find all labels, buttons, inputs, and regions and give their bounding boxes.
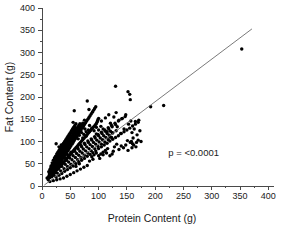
data-point — [101, 127, 104, 130]
data-point — [81, 136, 84, 139]
data-point — [87, 108, 90, 111]
scatter-plot-figure: 050100150200250300350400 050100150200250… — [0, 0, 282, 228]
data-point — [82, 166, 85, 169]
data-point — [124, 113, 127, 116]
y-tick-label: 400 — [20, 3, 35, 13]
y-tick-label: 350 — [20, 25, 35, 35]
data-point — [124, 143, 127, 146]
data-point — [78, 134, 81, 137]
data-point — [65, 175, 68, 178]
y-axis-tick-labels: 050100150200250300350400 — [20, 3, 35, 191]
data-point — [100, 119, 103, 122]
y-tick-label: 250 — [20, 70, 35, 80]
x-tick-label: 300 — [204, 191, 219, 201]
x-tick-label: 200 — [148, 191, 163, 201]
data-point — [138, 129, 141, 132]
data-point — [79, 167, 82, 170]
data-point — [95, 151, 98, 154]
data-point — [122, 127, 125, 130]
data-point — [113, 145, 116, 148]
data-point — [112, 115, 115, 118]
y-tick-label: 0 — [30, 181, 35, 191]
data-point — [114, 136, 117, 139]
data-point — [72, 171, 75, 174]
data-point — [116, 125, 119, 128]
data-point — [115, 142, 118, 145]
data-point — [95, 126, 98, 129]
data-point — [117, 118, 120, 121]
x-tick-label: 100 — [91, 191, 106, 201]
y-tick-label: 100 — [20, 137, 35, 147]
data-point — [74, 165, 77, 168]
x-tick-label: 350 — [233, 191, 248, 201]
x-tick-label: 50 — [65, 191, 75, 201]
data-point — [62, 176, 65, 179]
data-point — [82, 133, 85, 136]
data-point — [110, 125, 113, 128]
data-point — [137, 118, 140, 121]
data-point — [139, 140, 142, 143]
data-point — [75, 169, 78, 172]
x-tick-label: 400 — [261, 191, 276, 201]
data-point — [126, 139, 129, 142]
data-point — [131, 124, 134, 127]
y-axis-title: Fat Content (g) — [3, 62, 15, 133]
x-tick-label: 150 — [119, 191, 134, 201]
data-point — [130, 131, 133, 134]
data-point — [73, 126, 76, 129]
data-point — [60, 143, 63, 146]
data-point — [95, 132, 98, 135]
x-tick-label: 250 — [176, 191, 191, 201]
data-point — [90, 126, 93, 129]
x-tick-label: 0 — [39, 191, 44, 201]
data-point — [77, 137, 80, 140]
data-point — [97, 117, 100, 120]
data-point — [107, 113, 110, 116]
data-point — [131, 136, 134, 139]
data-point — [126, 149, 129, 152]
data-point — [73, 109, 76, 112]
y-tick-label: 50 — [25, 159, 35, 169]
y-axis-major-ticks — [38, 8, 42, 186]
data-point — [114, 111, 117, 114]
data-point — [128, 126, 131, 129]
data-point — [54, 142, 57, 145]
data-point — [73, 134, 76, 137]
data-point — [87, 128, 90, 131]
data-point — [94, 105, 97, 108]
x-axis-title: Protein Content (g) — [108, 212, 197, 224]
data-point — [97, 128, 100, 131]
data-point — [119, 132, 122, 135]
data-point — [55, 178, 58, 181]
scatter-points-group — [45, 47, 243, 183]
data-point — [110, 152, 113, 155]
data-point — [92, 129, 95, 132]
data-point — [69, 173, 72, 176]
data-point — [129, 98, 132, 101]
data-point — [134, 120, 137, 123]
data-point — [240, 47, 243, 50]
data-point — [58, 177, 61, 180]
data-point — [117, 148, 120, 151]
data-point — [134, 145, 137, 148]
data-point — [83, 157, 86, 160]
data-point — [74, 122, 77, 125]
data-point — [121, 117, 124, 120]
y-tick-label: 150 — [20, 114, 35, 124]
annotations-group: p = <0.0001 — [168, 147, 219, 158]
data-point — [109, 122, 112, 125]
data-point — [99, 125, 102, 128]
data-point — [86, 164, 89, 167]
data-point — [162, 104, 165, 107]
data-point — [86, 99, 89, 102]
data-point — [65, 146, 68, 149]
x-axis-major-ticks — [42, 186, 268, 190]
p-value-annotation: p = <0.0001 — [168, 147, 219, 158]
data-point — [122, 146, 125, 149]
data-point — [69, 139, 72, 142]
data-point — [66, 142, 69, 145]
data-point — [88, 124, 91, 127]
data-point — [135, 133, 138, 136]
data-point — [106, 147, 109, 150]
data-point — [88, 159, 91, 162]
